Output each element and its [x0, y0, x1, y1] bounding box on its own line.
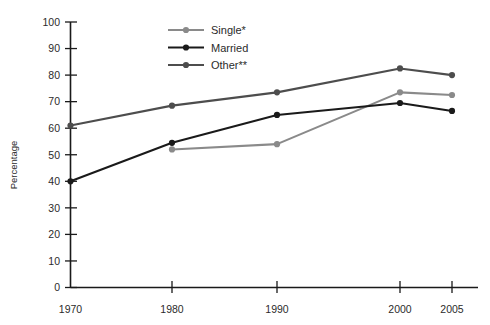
y-tick-label: 70	[48, 95, 60, 107]
x-tick-label: 1970	[59, 303, 83, 315]
data-point	[397, 89, 403, 95]
y-tick-label: 30	[48, 202, 60, 214]
series-married	[67, 100, 455, 185]
line-chart: Percentage 0102030405060708090100 197019…	[0, 0, 490, 325]
data-point	[449, 92, 455, 98]
data-point	[274, 112, 280, 118]
series-layer	[67, 65, 455, 184]
data-point	[67, 122, 73, 128]
y-tick-label: 60	[48, 122, 60, 134]
legend-item: Other**	[168, 59, 248, 71]
y-axis-ticks: 0102030405060708090100	[42, 16, 77, 294]
data-point	[67, 178, 73, 184]
y-tick-label: 40	[48, 175, 60, 187]
data-point	[449, 108, 455, 114]
series-single	[169, 89, 455, 152]
data-point	[169, 140, 175, 146]
legend-item: Single*	[168, 24, 247, 36]
legend-item: Married	[168, 42, 248, 54]
data-point	[397, 100, 403, 106]
y-tick-label: 90	[48, 42, 60, 54]
legend-label: Other**	[211, 59, 248, 71]
legend-swatch-marker	[183, 27, 189, 33]
y-tick-label: 100	[42, 16, 60, 28]
x-tick-label: 1990	[265, 303, 289, 315]
y-axis-title: Percentage	[8, 141, 19, 190]
y-tick-label: 50	[48, 149, 60, 161]
chart-canvas: Percentage 0102030405060708090100 197019…	[0, 0, 490, 325]
x-tick-label: 2005	[440, 303, 464, 315]
data-point	[449, 72, 455, 78]
y-tick-label: 0	[54, 281, 60, 293]
legend-swatch-marker	[183, 62, 189, 68]
y-tick-label: 20	[48, 228, 60, 240]
x-tick-label: 2000	[388, 303, 412, 315]
legend-swatch-marker	[183, 44, 189, 50]
data-point	[169, 103, 175, 109]
legend-label: Single*	[211, 24, 247, 36]
y-tick-label: 80	[48, 69, 60, 81]
series-line	[71, 68, 453, 125]
chart-legend: Single*MarriedOther**	[168, 24, 248, 71]
data-point	[169, 146, 175, 152]
x-tick-label: 1980	[160, 303, 184, 315]
data-point	[274, 141, 280, 147]
data-point	[397, 65, 403, 71]
legend-label: Married	[211, 42, 248, 54]
y-tick-label: 10	[48, 255, 60, 267]
data-point	[274, 89, 280, 95]
x-axis-ticks: 19701980199020002005	[59, 281, 464, 315]
